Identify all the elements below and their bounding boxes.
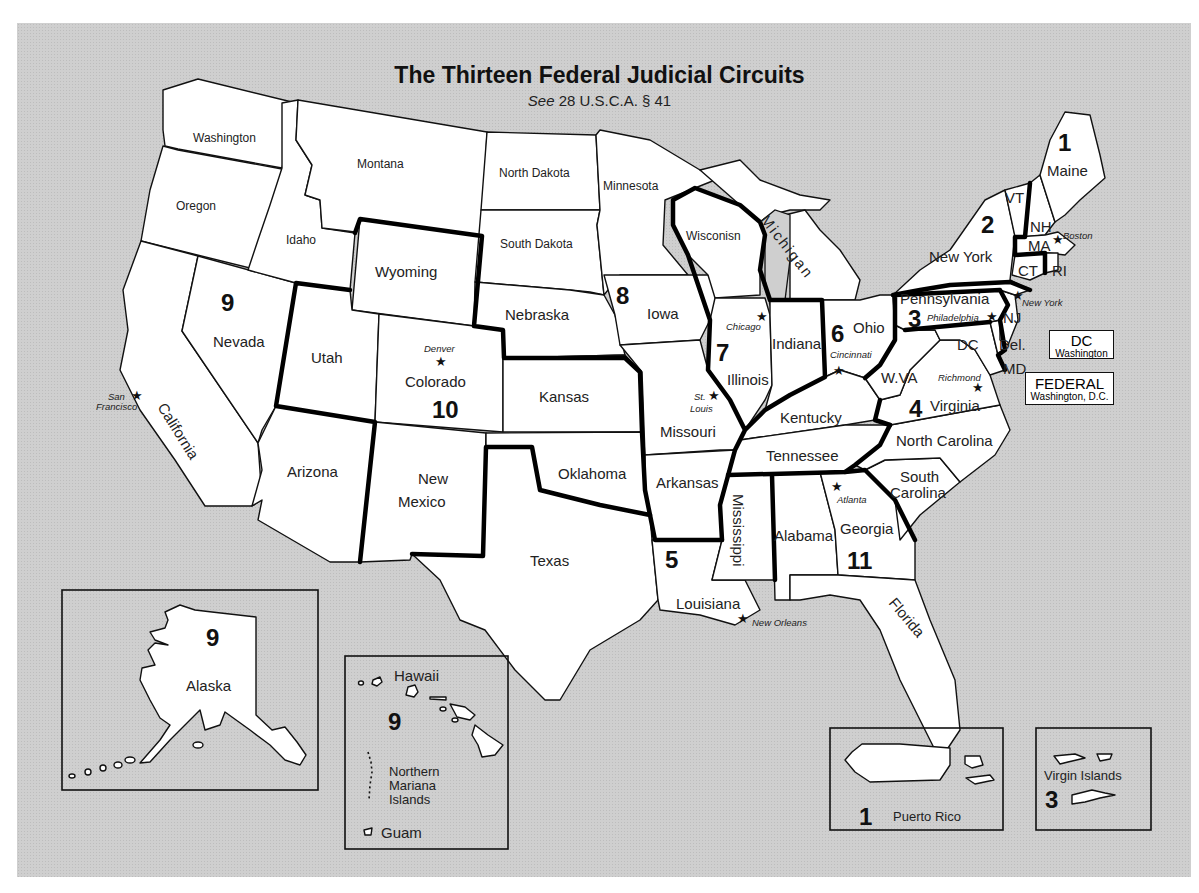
circuit-number-4: 4 [909, 397, 922, 421]
state-florida [790, 575, 960, 760]
hawaii-island-oahu [406, 685, 418, 697]
label-nevada: Nevada [213, 334, 265, 349]
label-new-york: New York [929, 249, 992, 264]
label-dc: DC [957, 337, 979, 352]
state-new-mexico [360, 422, 486, 562]
circuit-number-6: 6 [831, 322, 844, 346]
label-minnesota: Minnesota [603, 180, 658, 192]
label-georgia: Georgia [840, 521, 893, 536]
alaska-circuit-number: 9 [206, 626, 219, 650]
label-kansas: Kansas [539, 389, 589, 404]
label-alabama: Alabama [774, 528, 833, 543]
dc-circuit-title: DC [1050, 333, 1113, 348]
puerto-rico-vieques [965, 756, 983, 768]
label-maryland: MD [1003, 361, 1026, 376]
city-philadelphia: Philadelphia [927, 313, 979, 323]
dc-circuit-location: Washington [1050, 348, 1113, 359]
label-ohio: Ohio [853, 320, 885, 335]
label-massachusetts: MA [1028, 238, 1051, 253]
subtitle-citation: 28 U.S.C.A. § 41 [554, 92, 671, 109]
circuit-number-7: 7 [716, 341, 729, 365]
circuit-number-8: 8 [616, 284, 629, 308]
star-icon-st-louis: ★ [708, 389, 720, 402]
label-washington: Washington [193, 132, 256, 144]
city-st-louis-line1: St. [694, 392, 706, 402]
label-south-dakota: South Dakota [500, 238, 573, 250]
federal-circuit-box: FEDERAL Washington, D.C. [1025, 372, 1114, 405]
aleutian-island-2 [114, 762, 122, 768]
hawaii-island-kauai [372, 677, 382, 686]
label-mississippi: Mississippi [731, 494, 746, 567]
label-vermont: VT [1005, 190, 1024, 205]
label-missouri: Missouri [660, 424, 716, 439]
federal-circuit-location: Washington, D.C. [1026, 391, 1113, 402]
map-title: The Thirteen Federal Judicial Circuits [0, 62, 1199, 89]
label-oklahoma: Oklahoma [558, 466, 626, 481]
label-wyoming: Wyoming [375, 264, 437, 279]
alaska-label: Alaska [186, 678, 231, 693]
label-iowa: Iowa [647, 306, 679, 321]
virgin-islands-circuit-number: 3 [1045, 788, 1058, 812]
label-wisconsin: Wisconisn [686, 230, 741, 242]
label-colorado: Colorado [405, 374, 466, 389]
star-icon-cincinnati: ★ [833, 364, 845, 377]
label-indiana: Indiana [772, 336, 821, 351]
city-new-york: New York [1022, 298, 1062, 308]
label-texas: Texas [530, 553, 569, 568]
virgin-islands-st-thomas [1054, 754, 1085, 764]
city-st-louis-line2: Louis [690, 404, 713, 414]
circuit-number-3: 3 [908, 307, 921, 331]
label-arkansas: Arkansas [656, 475, 719, 490]
city-cincinnati: Cincinnati [830, 350, 872, 360]
label-new-hampshire: NH [1030, 219, 1052, 234]
circuit-number-5: 5 [665, 548, 678, 572]
label-montana: Montana [357, 158, 404, 170]
hawaii-island-niihau [359, 681, 364, 685]
hawaii-island-molokai [430, 697, 446, 700]
mariana-label-line1: Northern [389, 765, 440, 778]
hawaii-label: Hawaii [394, 668, 439, 683]
aleutian-island-5 [69, 774, 75, 778]
label-new-mexico-line2: Mexico [398, 494, 446, 509]
star-icon-atlanta: ★ [831, 480, 843, 493]
star-icon-richmond: ★ [972, 381, 984, 394]
mariana-label-line2: Mariana [389, 779, 436, 792]
label-utah: Utah [311, 350, 343, 365]
aleutian-island-1 [125, 757, 135, 763]
hawaii-island-big [472, 725, 503, 757]
label-connecticut: CT [1018, 263, 1038, 278]
guam-label: Guam [381, 825, 422, 840]
label-new-mexico-line1: New [408, 471, 458, 486]
label-south-carolina-line2: Carolina [890, 485, 946, 500]
city-chicago: Chicago [726, 322, 761, 332]
label-pennsylvania: Pennsylvania [900, 291, 989, 306]
circuit-number-2: 2 [981, 213, 994, 237]
star-icon-philadelphia: ★ [986, 310, 998, 323]
state-south-dakota [475, 210, 604, 295]
label-north-carolina: North Carolina [896, 433, 993, 448]
aleutian-island-3 [100, 765, 106, 771]
label-kentucky: Kentucky [780, 410, 842, 425]
label-idaho: Idaho [286, 234, 316, 246]
circuit-number-9: 9 [221, 291, 234, 315]
label-rhode-island: RI [1052, 263, 1067, 278]
state-arizona [252, 406, 375, 562]
virgin-islands-st-croix [1072, 790, 1115, 804]
label-illinois: Illinois [727, 372, 769, 387]
label-arizona: Arizona [287, 464, 338, 479]
label-louisiana: Louisiana [676, 596, 740, 611]
puerto-rico-circuit-number: 1 [859, 805, 872, 829]
city-san-francisco-line2: Francisco [96, 402, 137, 412]
alaska-island [193, 742, 203, 748]
label-new-jersey: NJ [1003, 310, 1021, 325]
circuit-number-1: 1 [1058, 131, 1071, 155]
virgin-islands-label: Virgin Islands [1044, 769, 1122, 782]
map-subtitle: See 28 U.S.C.A. § 41 [0, 92, 1199, 109]
label-west-virginia: W.VA [881, 370, 917, 385]
guam-island [364, 828, 372, 835]
hawaii-circuit-number: 9 [388, 710, 401, 734]
puerto-rico-culebra [966, 775, 994, 784]
city-denver: Denver [424, 344, 455, 354]
puerto-rico-label: Puerto Rico [893, 810, 961, 823]
city-boston: Boston [1063, 231, 1093, 241]
